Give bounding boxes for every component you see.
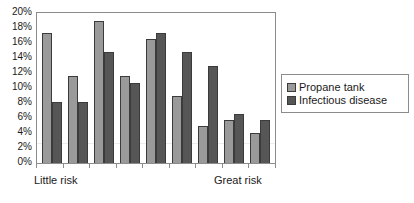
bar-group: [172, 13, 192, 163]
x-axis-tick: [222, 164, 223, 168]
bar: [120, 76, 130, 163]
bar: [156, 33, 166, 163]
bar: [52, 102, 62, 164]
y-axis-tick-label: 8%: [18, 97, 32, 107]
bar-chart: 20%18%16%14%12%10%8%6%4%2%0% Little risk…: [0, 0, 414, 203]
bar: [146, 39, 156, 163]
bar-group: [146, 13, 166, 163]
legend-label-infectious-disease: Infectious disease: [299, 94, 387, 106]
y-axis-tick-label: 12%: [12, 67, 32, 77]
bar: [172, 96, 182, 163]
bar: [130, 83, 140, 163]
legend-item-infectious-disease[interactable]: Infectious disease: [287, 94, 404, 106]
bar: [104, 52, 114, 163]
bar-group: [250, 13, 270, 163]
bar: [250, 133, 260, 163]
bar-group: [198, 13, 218, 163]
bar: [78, 102, 88, 164]
bar-group: [68, 13, 88, 163]
y-axis-tick-label: 16%: [12, 37, 32, 47]
x-axis-tick: [248, 164, 249, 168]
bar-group: [94, 13, 114, 163]
x-axis-label-great-risk: Great risk: [214, 174, 262, 186]
bar: [260, 120, 270, 163]
bar-group: [42, 13, 62, 163]
legend-swatch-icon-propane-tank: [287, 83, 296, 92]
bar: [208, 66, 218, 163]
x-axis-label-little-risk: Little risk: [34, 174, 77, 186]
y-axis-tick-label: 14%: [12, 52, 32, 62]
y-axis-tick-label: 10%: [12, 82, 32, 92]
y-axis-tick-label: 4%: [18, 127, 32, 137]
bar: [68, 76, 78, 163]
bar-group: [120, 13, 140, 163]
legend-item-propane-tank[interactable]: Propane tank: [287, 81, 404, 93]
x-axis-tick: [63, 164, 64, 168]
bar: [182, 52, 192, 163]
y-axis-tick-label: 2%: [18, 142, 32, 152]
y-axis: 20%18%16%14%12%10%8%6%4%2%0%: [0, 12, 34, 164]
y-axis-tick-label: 18%: [12, 22, 32, 32]
x-axis-tick: [116, 164, 117, 168]
x-axis-tick: [36, 164, 37, 168]
y-axis-tick-label: 6%: [18, 112, 32, 122]
x-axis-tick: [195, 164, 196, 168]
legend-swatch-icon-infectious-disease: [287, 96, 296, 105]
bar: [94, 21, 104, 164]
bar: [42, 33, 52, 163]
plot-area: [36, 12, 276, 164]
bar-group: [224, 13, 244, 163]
chart-legend: Propane tank Infectious disease: [281, 74, 409, 113]
x-axis-tick: [142, 164, 143, 168]
bar: [224, 120, 234, 163]
bar: [198, 126, 208, 164]
x-axis-tick: [275, 164, 276, 168]
x-axis-tick: [89, 164, 90, 168]
y-axis-tick-label: 20%: [12, 7, 32, 17]
y-axis-tick-label: 0%: [18, 157, 32, 167]
bar: [234, 114, 244, 163]
bar-groups-container: [37, 13, 275, 163]
x-axis-ticks: [36, 164, 276, 169]
legend-label-propane-tank: Propane tank: [299, 81, 364, 93]
x-axis-tick: [169, 164, 170, 168]
